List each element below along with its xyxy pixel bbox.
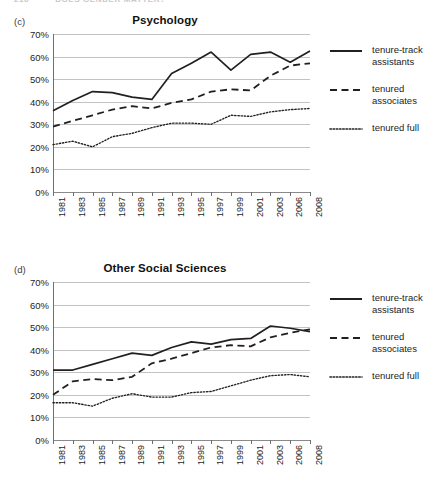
x-axis-tick: [290, 440, 291, 444]
legend-label: tenuredassociates: [372, 331, 441, 354]
x-axis-tick-label: 1981: [57, 445, 67, 465]
series-line-dashed: [53, 63, 310, 126]
x-axis-tick-label: 2008: [314, 445, 324, 465]
legend-line-solid-icon: [330, 49, 362, 53]
x-axis-tick-label: 2001: [255, 197, 265, 217]
y-axis-tick-label: 50%: [30, 74, 49, 85]
x-axis-tick: [310, 440, 311, 444]
x-axis-tick: [191, 192, 192, 196]
x-axis-tick: [231, 440, 232, 444]
x-axis-ticks: [53, 192, 310, 196]
legend-label-line1: tenured full: [372, 122, 419, 133]
y-axis-labels: 0%10%20%30%40%50%60%70%: [4, 34, 49, 192]
x-axis-tick: [211, 192, 212, 196]
x-axis-tick: [93, 192, 94, 196]
x-axis-tick-label: 2006: [294, 197, 304, 217]
legend-label-line1: tenure-track: [372, 44, 423, 55]
y-axis-tick-label: 0%: [35, 187, 49, 198]
series-line-dotted: [53, 375, 310, 407]
x-axis-tick: [172, 440, 173, 444]
x-axis-tick: [152, 192, 153, 196]
x-axis-tick: [191, 440, 192, 444]
panel-title-other-social-sciences: Other Social Sciences: [0, 262, 330, 274]
figure-page: 216DOES GENDER MATTER? (c) Psychology 0%…: [0, 0, 441, 500]
running-head-page-number: 216: [14, 0, 29, 4]
x-axis-tick-label: 1991: [156, 445, 166, 465]
x-axis-tick: [53, 440, 54, 444]
x-axis-tick-label: 1997: [215, 445, 225, 465]
y-axis-tick-label: 20%: [30, 141, 49, 152]
x-axis-tick: [172, 192, 173, 196]
legend-item-dashed: tenuredassociates: [330, 83, 441, 109]
x-axis-tick: [53, 192, 54, 196]
legend-item-dashed: tenuredassociates: [330, 331, 441, 357]
series-lines: [53, 282, 310, 440]
x-axis-tick-label: 1987: [117, 197, 127, 217]
x-axis-tick-label: 1995: [196, 445, 206, 465]
x-axis-tick-label: 1993: [176, 445, 186, 465]
x-axis-tick-label: 1991: [156, 197, 166, 217]
legend-item-solid: tenure-trackassistants: [330, 44, 441, 70]
legend-label-line1: tenured: [372, 83, 404, 94]
y-axis-tick-label: 10%: [30, 164, 49, 175]
panel-title-psychology: Psychology: [0, 14, 330, 26]
x-axis-tick: [310, 192, 311, 196]
x-axis-tick-label: 2006: [294, 445, 304, 465]
x-axis-tick-label: 1989: [136, 445, 146, 465]
x-axis-tick-label: 1987: [117, 445, 127, 465]
y-axis-tick-label: 70%: [30, 277, 49, 288]
legend-label-line2: associates: [372, 95, 417, 106]
y-axis-tick-label: 60%: [30, 299, 49, 310]
y-axis-tick-label: 30%: [30, 367, 49, 378]
legend-label-line1: tenure-track: [372, 292, 423, 303]
x-axis-tick: [152, 440, 153, 444]
x-axis-tick-label: 1981: [57, 197, 67, 217]
legend-label-line1: tenured full: [372, 370, 419, 381]
x-axis-tick-label: 1999: [235, 445, 245, 465]
legend-line-dashed-icon: [330, 88, 362, 92]
plot-area-psychology: 0%10%20%30%40%50%60%70% 1981198319851987…: [53, 34, 310, 192]
legend-label-line2: assistants: [372, 304, 414, 315]
x-axis-tick: [132, 440, 133, 444]
x-axis-tick: [251, 440, 252, 444]
plot-area-other-social-sciences: 0%10%20%30%40%50%60%70% 1981198319851987…: [53, 282, 310, 440]
legend-line-dashed-icon: [330, 336, 362, 340]
y-axis-tick-label: 60%: [30, 51, 49, 62]
x-axis-tick: [112, 192, 113, 196]
x-axis-tick-label: 1983: [77, 445, 87, 465]
running-head-title: DOES GENDER MATTER?: [55, 0, 165, 4]
series-lines: [53, 34, 310, 192]
series-line-solid: [53, 326, 310, 370]
x-axis-labels: 1981198319851987198919911993199519971999…: [53, 197, 310, 243]
x-axis-tick-label: 1985: [97, 445, 107, 465]
y-axis-labels: 0%10%20%30%40%50%60%70%: [4, 282, 49, 440]
legend-item-dotted: tenured full: [330, 370, 441, 396]
legend-line-dotted-icon: [330, 375, 362, 379]
y-axis-tick-label: 40%: [30, 96, 49, 107]
x-axis-tick-label: 2001: [255, 445, 265, 465]
chart-panel-other-social-sciences: (d) Other Social Sciences 0%10%20%30%40%…: [0, 262, 441, 500]
y-axis-tick-label: 0%: [35, 435, 49, 446]
x-axis-tick-label: 1999: [235, 197, 245, 217]
y-axis-tick-label: 70%: [30, 29, 49, 40]
x-axis-tick: [112, 440, 113, 444]
x-axis-tick: [132, 192, 133, 196]
x-axis-tick: [290, 192, 291, 196]
x-axis-tick-label: 1989: [136, 197, 146, 217]
x-axis-tick-label: 2003: [275, 445, 285, 465]
legend-label: tenuredassociates: [372, 83, 441, 106]
chart-panel-psychology: (c) Psychology 0%10%20%30%40%50%60%70% 1…: [0, 14, 441, 250]
legend-label-line2: associates: [372, 343, 417, 354]
legend-psychology: tenure-trackassistantstenuredassociatest…: [330, 44, 441, 161]
x-axis-tick-label: 1985: [97, 197, 107, 217]
legend-line-solid-icon: [330, 297, 362, 301]
legend-line-dotted-icon: [330, 127, 362, 131]
series-line-dotted: [53, 108, 310, 146]
series-line-dashed: [53, 329, 310, 394]
x-axis-tick-label: 2008: [314, 197, 324, 217]
x-axis-tick: [251, 192, 252, 196]
x-axis-tick-label: 2003: [275, 197, 285, 217]
legend-label: tenured full: [372, 122, 441, 134]
x-axis-tick: [73, 192, 74, 196]
legend-other-social-sciences: tenure-trackassistantstenuredassociatest…: [330, 292, 441, 409]
